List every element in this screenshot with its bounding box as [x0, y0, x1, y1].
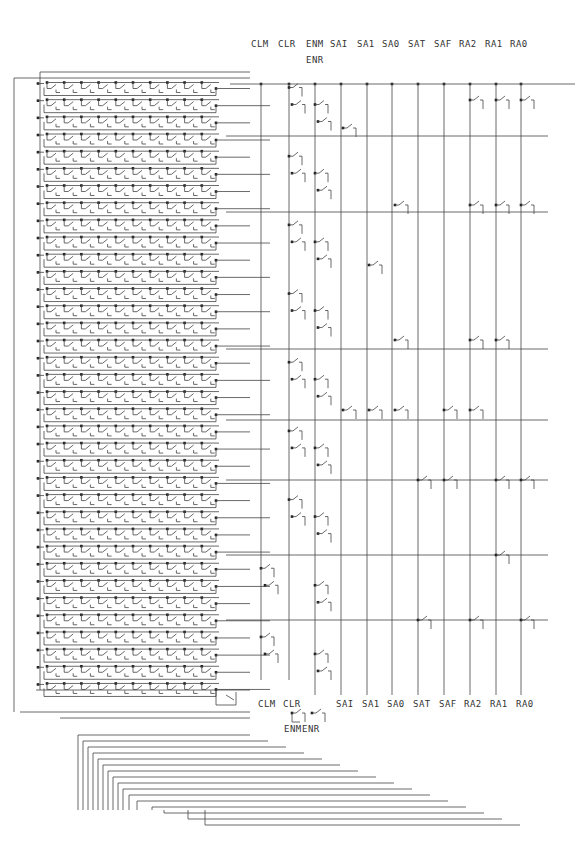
bottom-signal-label-saf: SAF: [439, 699, 457, 709]
top-signal-label-ra1: RA1: [485, 39, 503, 49]
top-signal-label-clr: CLR: [278, 39, 296, 49]
bottom-signal-label-ra0: RA0: [516, 699, 534, 709]
top-signal-label-sat: SAT: [408, 39, 426, 49]
bottom-signal-label-clm: CLM: [258, 699, 276, 709]
top-signal-label-enm: ENM: [306, 39, 324, 49]
top-signal-label-sa0: SA0: [382, 39, 400, 49]
top-signal-label-sa1: SA1: [357, 39, 375, 49]
bottom-signal-label-ra2: RA2: [464, 699, 482, 709]
bottom-sub-label-enr: ENR: [302, 724, 320, 734]
top-signal-label-saf: SAF: [434, 39, 452, 49]
top-signal-label-ra2: RA2: [459, 39, 477, 49]
bottom-sub-label-enm: ENM: [284, 724, 302, 734]
bottom-signal-label-clr: CLR: [283, 699, 301, 709]
bottom-signal-label-sa0: SA0: [387, 699, 405, 709]
relay-schematic: [0, 0, 575, 847]
top-sub-label-enr: ENR: [306, 55, 324, 65]
bottom-signal-label-sai: SAI: [336, 699, 354, 709]
bottom-signal-label-sa1: SA1: [362, 699, 380, 709]
bottom-signal-label-sat: SAT: [413, 699, 431, 709]
schematic-canvas: CLMCLRENMSAISA1SA0SATSAFRA2RA1RA0ENRCLMC…: [0, 0, 575, 847]
top-signal-label-ra0: RA0: [510, 39, 528, 49]
top-signal-label-clm: CLM: [251, 39, 269, 49]
top-signal-label-sai: SAI: [330, 39, 348, 49]
bottom-signal-label-ra1: RA1: [490, 699, 508, 709]
